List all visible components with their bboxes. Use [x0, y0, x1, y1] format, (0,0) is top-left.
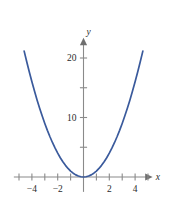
x-tick-label: −2 — [53, 184, 63, 194]
y-axis-arrow-icon — [80, 38, 87, 46]
tick-labels-group: −4−2241020xy — [27, 27, 161, 194]
y-tick-label: 10 — [67, 113, 77, 123]
y-tick-label: 20 — [67, 53, 77, 63]
axes-group — [14, 38, 153, 192]
x-tick-label: 4 — [133, 184, 138, 194]
x-axis-arrow-icon — [145, 173, 153, 180]
x-tick-label: 2 — [107, 184, 112, 194]
x-axis-label: x — [155, 172, 161, 182]
x-tick-label: −4 — [27, 184, 37, 194]
plot-canvas: −4−2241020xy — [0, 0, 178, 203]
parabola-figure: −4−2241020xy — [0, 0, 178, 203]
y-axis-label: y — [86, 27, 92, 37]
